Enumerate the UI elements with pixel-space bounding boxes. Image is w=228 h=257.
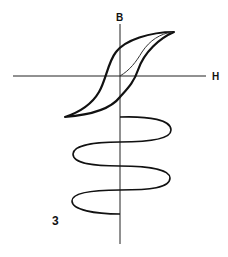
- h-axis-label: H: [212, 71, 219, 82]
- spiral-winding: [72, 117, 171, 214]
- b-axis-label: B: [116, 12, 123, 23]
- figure-number: 3: [52, 214, 59, 228]
- hysteresis-diagram: B H 3: [0, 0, 228, 257]
